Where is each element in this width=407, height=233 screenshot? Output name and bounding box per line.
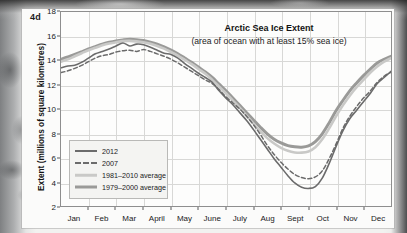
y-tick-mark	[57, 207, 60, 208]
legend-item: 2012	[75, 145, 162, 157]
legend-swatch-icon	[75, 182, 97, 192]
x-tick-label: July	[233, 214, 247, 223]
legend-swatch-icon	[75, 146, 97, 156]
y-tick-mark	[57, 84, 60, 85]
x-tick-mark	[364, 207, 365, 210]
y-tick-label: 12	[47, 80, 56, 89]
legend-label: 2007	[102, 159, 118, 168]
y-tick-label: 16	[47, 31, 56, 40]
x-tick-label: Feb	[95, 214, 109, 223]
x-tick-label: Oct	[317, 214, 329, 223]
y-tick-mark	[57, 11, 60, 12]
x-tick-label: Jan	[67, 214, 80, 223]
y-tick-mark	[57, 60, 60, 61]
y-tick-mark	[57, 35, 60, 36]
x-tick-label: Sept	[287, 214, 303, 223]
y-tick-mark	[57, 182, 60, 183]
figure-screenshot: 4d Extent (millions of square kilometres…	[0, 0, 407, 233]
x-tick-mark	[253, 207, 254, 210]
legend-swatch-icon	[75, 170, 97, 180]
x-tick-label: Dec	[371, 214, 385, 223]
legend-label: 1981–2010 average	[102, 171, 166, 180]
legend-item: 1979–2000 average	[75, 181, 162, 193]
x-tick-mark	[281, 207, 282, 210]
x-tick-label: May	[177, 214, 192, 223]
y-tick-mark	[57, 109, 60, 110]
y-tick-label: 18	[47, 7, 56, 16]
x-tick-mark	[226, 207, 227, 210]
legend-item: 2007	[75, 157, 162, 169]
x-tick-label: June	[203, 214, 220, 223]
y-tick-label: 10	[47, 105, 56, 114]
y-tick-mark	[57, 133, 60, 134]
plot-wrapper: Arctic Sea Ice Extent (area of ocean wit…	[60, 11, 392, 207]
y-tick-mark	[57, 158, 60, 159]
x-tick-mark	[336, 207, 337, 210]
y-tick-label: 2	[52, 203, 56, 212]
x-tick-label: Mar	[122, 214, 136, 223]
x-tick-mark	[198, 207, 199, 210]
y-tick-label: 14	[47, 56, 56, 65]
x-tick-mark	[115, 207, 116, 210]
y-tick-label: 6	[52, 154, 56, 163]
x-tick-mark	[170, 207, 171, 210]
plot-area: Arctic Sea Ice Extent (area of ocean wit…	[60, 11, 392, 207]
x-tick-label: Nov	[343, 214, 357, 223]
legend: 201220071981–2010 average1979–2000 avera…	[69, 140, 168, 199]
x-tick-mark	[143, 207, 144, 210]
y-tick-label: 4	[52, 178, 56, 187]
x-tick-label: Aug	[260, 214, 274, 223]
x-tick-mark	[309, 207, 310, 210]
y-axis-title: Extent (millions of square kilometres)	[36, 17, 46, 217]
legend-label: 1979–2000 average	[102, 183, 166, 192]
x-tick-mark	[87, 207, 88, 210]
y-tick-label: 8	[52, 129, 56, 138]
legend-swatch-icon	[75, 158, 97, 168]
legend-item: 1981–2010 average	[75, 169, 162, 181]
legend-label: 2012	[102, 147, 118, 156]
x-tick-label: April	[149, 214, 165, 223]
